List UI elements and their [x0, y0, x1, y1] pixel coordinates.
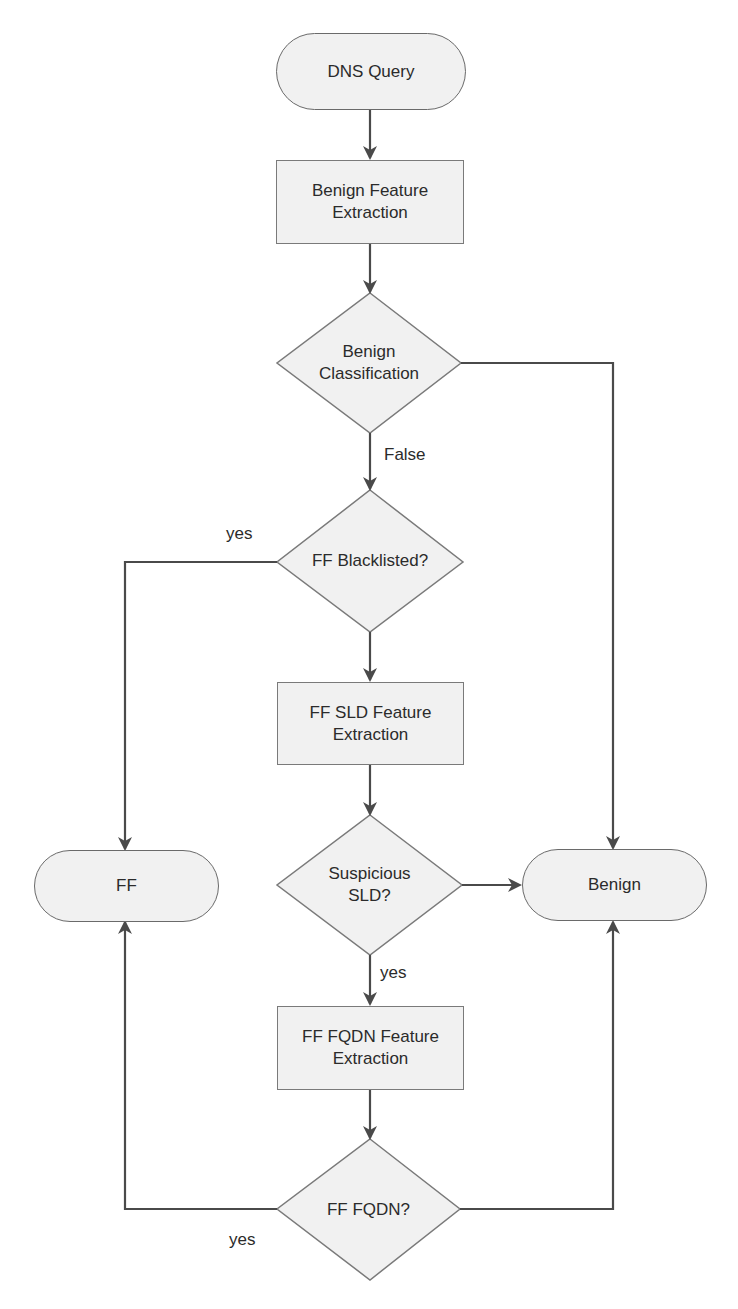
node-label: Benign	[588, 874, 641, 896]
node-benign-classification: Benign Classification	[277, 293, 461, 433]
edge-label-yes-sld: yes	[380, 963, 406, 983]
node-ff-blacklisted: FF Blacklisted?	[277, 490, 463, 632]
node-ff: FF	[34, 850, 219, 922]
node-label: FF FQDN Feature Extraction	[302, 1026, 439, 1070]
node-benign-feature-extraction: Benign Feature Extraction	[276, 160, 464, 244]
edge-label-false: False	[384, 445, 426, 465]
node-dns-query: DNS Query	[276, 33, 466, 110]
node-label: FF FQDN?	[327, 1199, 410, 1221]
edge-blacklisted-to-ff	[125, 562, 277, 849]
node-benign: Benign	[522, 849, 707, 921]
flowchart-canvas: DNS Query FF Benign Benign Feature Extra…	[0, 0, 738, 1309]
node-label: Benign Classification	[319, 341, 419, 385]
edge-label-yes-blacklisted: yes	[226, 524, 252, 544]
node-label: Suspicious SLD?	[328, 863, 410, 907]
edge-bc-to-benign	[461, 363, 613, 848]
node-label: DNS Query	[328, 61, 415, 83]
node-label: Benign Feature Extraction	[312, 180, 428, 224]
node-label: FF SLD Feature Extraction	[310, 702, 432, 746]
node-label: FF	[116, 875, 137, 897]
node-ff-fqdn-feature-extraction: FF FQDN Feature Extraction	[277, 1006, 464, 1090]
node-suspicious-sld: Suspicious SLD?	[277, 815, 462, 955]
edge-fqdn-to-ff	[125, 922, 277, 1209]
edge-fqdn-to-benign	[460, 922, 613, 1209]
node-ff-fqdn: FF FQDN?	[277, 1139, 460, 1280]
edge-label-yes-fqdn: yes	[229, 1230, 255, 1250]
node-label: FF Blacklisted?	[312, 550, 428, 572]
node-ff-sld-feature-extraction: FF SLD Feature Extraction	[277, 682, 464, 765]
